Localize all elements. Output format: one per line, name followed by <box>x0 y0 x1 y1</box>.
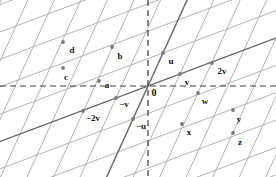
point-b-dot <box>110 45 114 49</box>
lattice-grid-svg <box>0 0 276 177</box>
u-axis-line <box>105 0 189 177</box>
point-c-dot <box>61 66 65 70</box>
point-neg-u-dot <box>131 117 135 121</box>
point-c-label: c <box>64 73 68 82</box>
point-v-dot <box>178 72 182 76</box>
point-a-dot <box>97 79 101 83</box>
point-y-label: y <box>237 115 242 124</box>
point-u-label: u <box>168 57 173 66</box>
point-x-dot <box>180 122 184 126</box>
point-x-label: x <box>187 128 192 137</box>
point-u-dot <box>161 51 165 55</box>
point-neg-v-label: −v <box>119 100 129 109</box>
point-z-label: z <box>238 138 242 147</box>
point-z-dot <box>231 131 235 135</box>
point-b-label: b <box>117 52 122 61</box>
point-neg-u-label: −u <box>136 122 146 131</box>
point-origin-label: 0 <box>152 88 157 98</box>
point-y-dot <box>231 108 235 112</box>
point-d-dot <box>61 40 65 44</box>
point-w-dot <box>196 91 200 95</box>
point-neg-v-dot <box>114 96 118 100</box>
point-v-label: v <box>185 78 190 87</box>
lattice-diagram: dbuc2vav0−vw−2v−uyxz <box>0 0 276 177</box>
point-neg-2v-label: −2v <box>86 114 100 123</box>
point-d-label: d <box>69 46 74 55</box>
grid-lines-v-direction <box>0 0 276 177</box>
point-w-label: w <box>202 97 209 106</box>
point-2v-dot <box>210 61 214 65</box>
point-neg-2v-dot <box>81 109 85 113</box>
point-a-label: a <box>105 81 110 90</box>
point-2v-label: 2v <box>218 67 227 76</box>
